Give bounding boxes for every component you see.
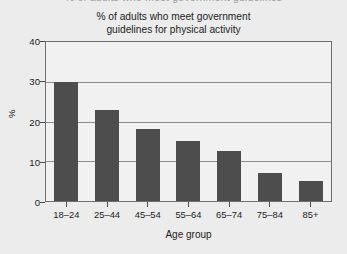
bar-25-44 [95,110,119,201]
x-tick-label-18-24: 18–24 [46,209,86,220]
x-tick-mark-3 [147,202,148,207]
x-axis-tick-labels: 18–24 25–44 45–54 55–64 65–74 75–84 85+ [46,209,331,220]
bar-75-84 [258,173,282,201]
x-tick-mark-6 [269,202,270,207]
x-tick-mark-7 [310,202,311,207]
y-tick-label-30: 30 [0,76,40,87]
bar-55-64 [176,141,200,201]
x-tick-label-75-84: 75–84 [250,209,290,220]
y-tick-label-0: 0 [0,197,40,208]
x-tick-label-85-plus: 85+ [291,209,331,220]
x-tick-label-65-74: 65–74 [209,209,249,220]
x-tick-mark-1 [66,202,67,207]
y-tick-mark-0 [40,202,45,203]
x-tick-mark-2 [107,202,108,207]
clipped-top-text: % of adults who meet government guidelin… [0,0,347,5]
chart-title-line-1: % of adults who meet government [0,11,347,24]
y-axis-label: % [6,109,17,118]
y-tick-label-10: 10 [0,156,40,167]
y-tick-label-40: 40 [0,36,40,47]
x-tick-label-45-54: 45–54 [128,209,168,220]
bar-series [46,42,331,201]
x-axis-label: Age group [45,229,332,240]
bar-18-24 [54,82,78,201]
chart-title: % of adults who meet government guidelin… [0,11,347,36]
x-tick-label-25-44: 25–44 [87,209,127,220]
x-axis-ticks [46,202,331,207]
bar-chart-figure: % of adults who meet government guidelin… [0,0,347,254]
bar-45-54 [136,129,160,201]
chart-title-line-2: guidelines for physical activity [0,24,347,37]
x-tick-label-55-64: 55–64 [168,209,208,220]
bar-85-plus [299,181,323,201]
x-tick-mark-4 [188,202,189,207]
bar-65-74 [217,151,241,201]
x-tick-mark-5 [229,202,230,207]
